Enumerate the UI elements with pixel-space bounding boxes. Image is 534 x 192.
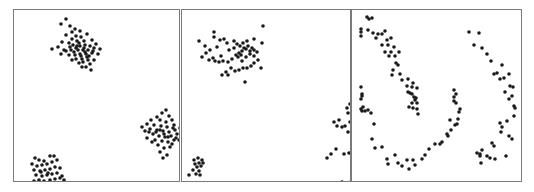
data-point — [198, 173, 202, 177]
data-point — [507, 134, 511, 138]
data-point — [455, 122, 459, 126]
data-point — [420, 157, 424, 161]
data-point — [467, 30, 471, 34]
data-point — [240, 59, 244, 63]
data-point — [50, 160, 54, 164]
data-point — [237, 68, 241, 72]
data-point — [68, 45, 72, 49]
data-point — [32, 179, 36, 181]
data-point — [89, 68, 93, 72]
data-point — [226, 73, 230, 77]
data-point — [325, 156, 329, 160]
data-point — [192, 158, 196, 162]
data-point — [456, 117, 460, 121]
data-point — [334, 147, 338, 151]
data-point — [383, 50, 387, 54]
data-point — [81, 60, 85, 64]
scatter-panel-varied-blobs — [181, 9, 351, 182]
data-point — [452, 95, 456, 99]
data-point — [170, 142, 174, 146]
data-point — [393, 153, 397, 157]
data-point — [56, 45, 60, 49]
data-point — [161, 156, 165, 160]
data-point — [390, 73, 394, 77]
data-point — [490, 141, 494, 145]
data-point — [174, 136, 178, 140]
data-point — [67, 41, 71, 45]
data-point — [80, 65, 84, 69]
data-point — [492, 72, 496, 76]
data-point — [329, 152, 333, 156]
data-point — [371, 31, 375, 35]
data-point — [82, 46, 86, 50]
data-point — [480, 46, 484, 50]
data-point — [233, 69, 237, 73]
data-point — [58, 166, 62, 170]
data-point — [507, 97, 511, 101]
data-point — [203, 44, 207, 48]
data-point — [147, 130, 151, 134]
data-point — [39, 170, 43, 174]
data-point — [211, 56, 215, 60]
data-point — [391, 68, 395, 72]
data-point — [82, 39, 86, 43]
data-point — [243, 80, 247, 84]
data-point — [238, 44, 242, 48]
data-point — [157, 134, 161, 138]
data-point — [488, 156, 492, 160]
data-point — [64, 17, 68, 21]
data-point — [252, 48, 256, 52]
data-point — [373, 146, 377, 150]
data-point — [145, 136, 149, 140]
data-point — [194, 172, 198, 176]
data-point — [415, 101, 419, 105]
data-point — [62, 48, 66, 52]
data-point — [45, 162, 49, 166]
data-point — [37, 178, 41, 181]
data-point — [513, 106, 517, 110]
data-point — [59, 22, 63, 26]
data-point — [376, 32, 380, 36]
data-point — [385, 38, 389, 42]
data-point — [42, 179, 46, 181]
data-point — [53, 177, 57, 181]
data-point — [480, 148, 484, 152]
data-point — [158, 118, 162, 122]
data-point — [88, 44, 92, 48]
data-point — [393, 54, 397, 58]
data-point — [60, 40, 64, 44]
data-point — [74, 57, 78, 61]
scatter-plot-blobs — [14, 10, 179, 181]
data-point — [59, 52, 63, 56]
data-point — [255, 50, 259, 54]
data-point — [369, 111, 373, 115]
data-point — [489, 59, 493, 63]
data-point — [346, 111, 350, 115]
data-point — [372, 122, 376, 126]
data-point — [200, 55, 204, 59]
data-point — [40, 163, 44, 167]
data-point — [415, 107, 419, 111]
data-point — [196, 156, 200, 160]
data-point — [78, 29, 82, 33]
data-point — [479, 161, 483, 165]
data-point — [400, 78, 404, 82]
scatter-panel-blobs — [13, 9, 180, 182]
data-point — [340, 180, 344, 181]
data-point — [32, 168, 36, 172]
data-point — [175, 132, 179, 136]
data-point — [218, 38, 222, 42]
data-point — [260, 41, 264, 45]
data-point — [199, 164, 203, 168]
data-point — [191, 168, 195, 172]
data-point — [256, 58, 260, 62]
data-point — [162, 132, 166, 136]
data-point — [33, 156, 37, 160]
data-point — [475, 151, 479, 155]
data-point — [204, 51, 208, 55]
data-point — [411, 81, 415, 85]
data-point — [34, 173, 38, 177]
data-point — [225, 41, 229, 45]
data-point — [156, 143, 160, 147]
data-point — [83, 50, 87, 54]
